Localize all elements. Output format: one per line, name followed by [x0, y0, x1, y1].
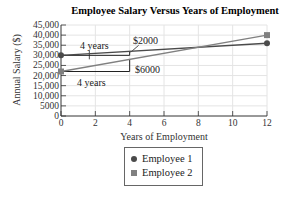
annotation-emp2-rise: $6000 — [135, 64, 160, 75]
y-tick-label: 45,000 — [33, 20, 59, 30]
legend-item-employee-2: Employee 2 — [131, 167, 192, 178]
x-tick-label: 4 — [127, 118, 132, 128]
x-tick-label: 10 — [228, 118, 238, 128]
y-tick-label: 40,000 — [33, 30, 59, 40]
x-tick-label: 12 — [262, 118, 272, 128]
y-tick-label: 35,000 — [33, 40, 59, 50]
y-axis-label: Annual Salary ($) — [11, 34, 23, 106]
legend-label: Employee 2 — [142, 167, 192, 178]
square-marker-icon — [131, 170, 137, 176]
circle-marker-icon — [131, 156, 137, 162]
x-axis-label: Years of Employment — [120, 131, 208, 142]
annotations: 4 years $2000 4 years $6000 — [61, 35, 160, 88]
chart-title: Employee Salary Versus Years of Employme… — [71, 5, 279, 16]
x-tick-label: 8 — [196, 118, 201, 128]
annotation-emp2-run: 4 years — [77, 77, 106, 88]
annotation-emp1-run: 4 years — [80, 40, 109, 51]
square-marker-icon — [58, 69, 64, 75]
circle-marker-icon — [264, 40, 270, 46]
y-tick-label: 10,000 — [33, 91, 59, 101]
circle-marker-icon — [58, 52, 64, 58]
x-tick-labels: 024681012 — [59, 118, 272, 128]
y-tick-label: 5000 — [40, 101, 59, 111]
y-tick-label: 15,000 — [33, 81, 59, 91]
legend-item-employee-1: Employee 1 — [131, 153, 192, 164]
legend: Employee 1 Employee 2 — [124, 147, 203, 186]
y-tick-label: 20,000 — [33, 71, 59, 81]
x-tick-label: 0 — [59, 118, 64, 128]
y-tick-label: 30,000 — [33, 50, 59, 60]
square-marker-icon — [264, 32, 270, 38]
y-tick-label: 25,000 — [33, 60, 59, 70]
grid — [61, 25, 267, 116]
x-tick-label: 2 — [93, 118, 98, 128]
x-tick-label: 6 — [162, 118, 167, 128]
y-tick-labels: 0500010,00015,00020,00025,00030,00035,00… — [33, 20, 59, 121]
annotation-emp1-rise: $2000 — [133, 35, 158, 46]
legend-label: Employee 1 — [142, 153, 192, 164]
